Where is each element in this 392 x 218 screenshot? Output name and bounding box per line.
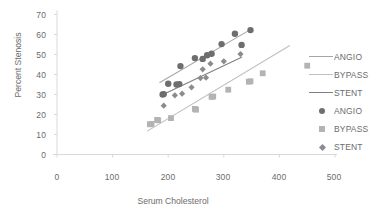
data-point	[247, 27, 253, 33]
data-point	[207, 61, 213, 67]
legend-square-marker-icon	[308, 120, 334, 138]
series-bypass	[147, 63, 310, 127]
legend-item-bypass-line[interactable]: BYPASS	[308, 66, 390, 84]
data-point	[210, 94, 216, 100]
data-point	[161, 91, 167, 97]
data-point	[232, 31, 238, 37]
data-point	[193, 107, 199, 113]
legend-item-angio-line[interactable]: ANGIO	[308, 48, 390, 66]
data-point	[237, 51, 243, 57]
legend-line-swatch-stent	[308, 84, 334, 102]
legend-line-swatch-angio	[308, 48, 334, 66]
legend-label: ANGIO	[334, 106, 362, 116]
data-point	[238, 42, 244, 48]
series-angio	[159, 27, 253, 98]
data-point	[179, 91, 185, 97]
legend-item-bypass-marker[interactable]: BYPASS	[308, 120, 390, 138]
legend-item-stent-marker[interactable]: STENT	[308, 138, 390, 156]
data-point	[192, 55, 198, 61]
data-point	[218, 41, 224, 47]
data-point	[200, 66, 206, 72]
legend-label: BYPASS	[334, 70, 368, 80]
legend-label: BYPASS	[334, 124, 368, 134]
data-point	[149, 121, 155, 127]
data-point	[168, 115, 174, 121]
data-point	[176, 81, 182, 87]
data-point	[172, 92, 178, 98]
legend-line-swatch-bypass	[308, 66, 334, 84]
data-point	[225, 87, 231, 93]
legend-diamond-marker-icon	[308, 138, 334, 156]
data-point	[248, 78, 254, 84]
legend-label: STENT	[334, 142, 363, 152]
data-point	[155, 117, 161, 123]
data-point	[161, 103, 167, 109]
legend-item-angio-marker[interactable]: ANGIO	[308, 102, 390, 120]
legend-label: STENT	[334, 88, 363, 98]
data-point	[177, 63, 183, 69]
legend-label: ANGIO	[334, 52, 362, 62]
data-point	[260, 70, 266, 76]
data-point	[208, 51, 214, 57]
data-point	[188, 84, 194, 90]
data-point	[165, 81, 171, 87]
legend-circle-marker-icon	[308, 102, 334, 120]
legend-item-stent-line[interactable]: STENT	[308, 84, 390, 102]
scatter-chart: Percent Stenosis Serum Cholesterol 70 60…	[0, 0, 392, 218]
data-point	[221, 58, 227, 64]
chart-legend: ANGIO BYPASS STENT ANGIO BYPASS STENT	[308, 48, 390, 156]
